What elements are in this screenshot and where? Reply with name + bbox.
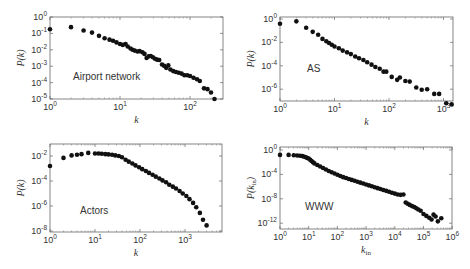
data-point — [209, 90, 214, 95]
data-point — [444, 101, 449, 106]
tick-label: 100 — [263, 12, 277, 24]
panel-airport-network: 10010110210010-110-210-310-410-5kP(k)Air… — [15, 10, 223, 125]
tick-label: 10-3 — [31, 59, 47, 71]
data-point — [401, 192, 406, 197]
data-point — [75, 152, 80, 157]
tick-label: 103 — [359, 230, 373, 242]
data-point — [97, 34, 102, 39]
data-point — [69, 153, 74, 158]
data-point — [194, 205, 199, 210]
tick-label: 10-8 — [261, 192, 277, 204]
data-point — [365, 60, 370, 65]
tick-label: 10-2 — [31, 43, 47, 55]
data-point — [414, 85, 419, 90]
tick-label: 102 — [382, 102, 396, 114]
data-point — [198, 211, 203, 216]
panel-label: Actors — [80, 205, 108, 216]
tick-label: 102 — [331, 230, 345, 242]
panel-label: Airport network — [73, 71, 141, 82]
tick-label: 100 — [33, 10, 47, 22]
tick-label: 101 — [88, 233, 102, 245]
data-point — [86, 151, 91, 156]
plot-frame — [50, 144, 222, 232]
data-point — [432, 92, 437, 97]
data-point — [278, 21, 283, 26]
data-point — [278, 153, 283, 158]
tick-label: 101 — [328, 102, 342, 114]
tick-label: 10-4 — [261, 167, 277, 179]
tick-label: 10-4 — [261, 59, 277, 71]
data-point — [433, 214, 438, 219]
panel-label: WWW — [305, 201, 334, 212]
data-point — [369, 62, 374, 67]
data-point — [205, 87, 210, 92]
data-point — [439, 216, 444, 221]
x-axis-label: k — [134, 114, 139, 125]
data-point — [407, 79, 412, 84]
data-point — [310, 30, 315, 35]
data-point — [436, 219, 441, 224]
tick-label: 102 — [183, 100, 197, 112]
y-axis-label: P(kin) — [245, 176, 257, 200]
tick-label: 102 — [133, 233, 147, 245]
data-point — [337, 46, 342, 51]
tick-label: 100 — [43, 233, 57, 245]
data-point — [403, 79, 408, 84]
data-point — [198, 79, 203, 84]
tick-label: 103 — [437, 102, 451, 114]
data-point — [69, 25, 74, 30]
figure: 10010110210010-110-210-310-410-5kP(k)Air… — [0, 0, 470, 269]
data-point — [187, 197, 192, 202]
tick-label: 10-4 — [31, 76, 47, 88]
data-point — [48, 27, 53, 32]
data-point — [349, 52, 354, 57]
tick-label: 104 — [388, 230, 402, 242]
data-point — [142, 52, 147, 57]
tick-label: 101 — [302, 230, 316, 242]
panel-label: AS — [307, 63, 321, 74]
tick-label: 100 — [43, 100, 57, 112]
data-point — [90, 30, 95, 35]
tick-label: 10-12 — [258, 216, 278, 228]
tick-label: 10-4 — [31, 174, 47, 186]
data-point — [61, 156, 66, 161]
data-point — [304, 25, 309, 30]
data-point — [166, 63, 171, 68]
data-point — [449, 102, 454, 107]
tick-label: 101 — [113, 100, 127, 112]
data-point — [79, 152, 84, 157]
x-axis-label: kin — [361, 244, 371, 257]
data-point — [332, 44, 337, 49]
tick-label: 100 — [263, 143, 277, 155]
data-point — [419, 87, 424, 92]
data-point — [316, 32, 321, 37]
tick-label: 100 — [273, 102, 287, 114]
data-point — [191, 201, 196, 206]
tick-label: 100 — [273, 230, 287, 242]
panel-as: 10010110210310010-210-410-6kP(k)AS — [245, 12, 454, 127]
data-point — [48, 164, 53, 169]
data-point — [81, 28, 86, 33]
data-point — [201, 217, 206, 222]
data-point — [357, 56, 362, 61]
panel-www: 10010110210310410510610010-410-810-12kin… — [245, 143, 459, 257]
tick-label: 106 — [445, 230, 459, 242]
y-axis-label: P(k) — [15, 49, 27, 68]
x-axis-label: k — [364, 116, 369, 127]
tick-label: 10-6 — [31, 199, 47, 211]
y-axis-label: P(k) — [245, 50, 257, 69]
plot-frame — [50, 17, 223, 99]
tick-label: 10-1 — [31, 26, 47, 38]
data-point — [212, 97, 217, 102]
data-point — [384, 69, 389, 74]
data-point — [286, 153, 291, 158]
tick-label: 10-2 — [261, 35, 277, 47]
tick-label: 103 — [178, 233, 192, 245]
data-point — [340, 48, 345, 53]
data-point — [373, 65, 378, 70]
data-point — [361, 58, 366, 63]
data-point — [429, 217, 434, 222]
data-point — [294, 19, 299, 24]
tick-label: 10-6 — [261, 82, 277, 94]
data-point — [377, 66, 382, 71]
